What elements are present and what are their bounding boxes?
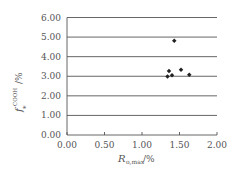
y-tick-label: 1.00	[41, 110, 61, 120]
x-tick-label: 2.00	[207, 140, 227, 150]
grid-lines	[67, 18, 217, 136]
data-points	[165, 39, 191, 79]
y-axis-label: f * COOH /%	[12, 72, 30, 113]
y-tick-labels: 0.001.002.003.004.005.006.00	[41, 13, 61, 141]
svg-text:o,max: o,max	[126, 158, 145, 165]
y-tick-label: 6.00	[41, 13, 61, 23]
y-tick-label: 5.00	[41, 32, 61, 42]
x-tick-labels: 0.000.501.001.502.00	[57, 140, 227, 150]
y-tick-label: 0.00	[41, 130, 61, 140]
data-point	[172, 39, 177, 44]
svg-text:R: R	[117, 153, 126, 164]
svg-text:*: *	[22, 105, 30, 109]
data-point	[179, 68, 184, 73]
x-axis-label: R o,max /%	[117, 153, 155, 165]
data-point	[165, 74, 170, 79]
data-point	[167, 69, 172, 74]
svg-text:COOH: COOH	[12, 88, 18, 106]
y-tick-label: 3.00	[41, 71, 61, 81]
svg-text:/%: /%	[143, 154, 155, 164]
data-point	[170, 73, 175, 78]
x-tick-label: 0.00	[57, 140, 77, 150]
y-tick-label: 4.00	[41, 52, 61, 62]
x-tick-label: 0.50	[94, 140, 114, 150]
x-tick-label: 1.50	[169, 140, 189, 150]
svg-text:/%: /%	[14, 72, 24, 84]
y-tick-label: 2.00	[41, 91, 61, 101]
scatter-chart: 0.001.002.003.004.005.006.00 0.000.501.0…	[0, 0, 241, 178]
x-tick-label: 1.00	[132, 140, 152, 150]
